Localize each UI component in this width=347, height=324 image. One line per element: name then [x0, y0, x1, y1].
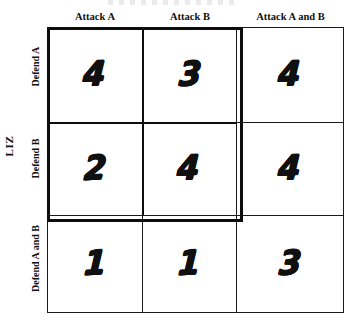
column-header-row: Attack A Attack B Attack A and B	[47, 9, 344, 25]
cell-defend-a-and-b-attack-b: 1	[143, 216, 237, 313]
cropped-title-sliver	[108, 0, 240, 5]
row-header-defend-b: Defend B	[30, 117, 41, 201]
column-header-attack-a: Attack A	[47, 9, 143, 25]
cell-defend-a-and-b-attack-a: 1	[47, 216, 143, 313]
cell-value: 3	[279, 246, 302, 281]
column-header-attack-a-and-b: Attack A and B	[237, 9, 344, 25]
row-axis-label: LIZ	[3, 123, 15, 169]
matrix-grid: 4 3 4 2 4 4 1 1 3	[47, 27, 344, 313]
cell-defend-b-attack-b: 4	[143, 123, 237, 216]
matrix-cells: 4 3 4 2 4 4 1 1 3	[47, 27, 344, 313]
cell-defend-a-attack-b: 3	[143, 27, 237, 123]
cell-defend-a-and-b-attack-a-and-b: 3	[237, 216, 344, 313]
row-header-defend-a-and-b: Defend A and B	[30, 217, 41, 301]
cell-defend-a-attack-a: 4	[47, 27, 143, 123]
cell-value: 1	[83, 246, 107, 281]
cell-value: 2	[83, 151, 107, 186]
cell-value: 3	[178, 57, 201, 92]
cell-value: 4	[277, 151, 301, 186]
cell-value: 1	[178, 246, 202, 281]
row-header-column: Defend A Defend B Defend A and B	[24, 27, 46, 313]
cell-value: 4	[277, 57, 301, 92]
cell-defend-a-attack-a-and-b: 4	[237, 27, 344, 123]
cell-defend-b-attack-a: 2	[47, 123, 143, 216]
cell-value: 4	[177, 151, 201, 186]
payoff-matrix-figure: LIZ Attack A Attack B Attack A and B Def…	[0, 0, 347, 324]
row-header-defend-a: Defend A	[30, 25, 41, 109]
cell-value: 4	[82, 57, 106, 92]
column-header-attack-b: Attack B	[143, 9, 237, 25]
cell-defend-b-attack-a-and-b: 4	[237, 123, 344, 216]
